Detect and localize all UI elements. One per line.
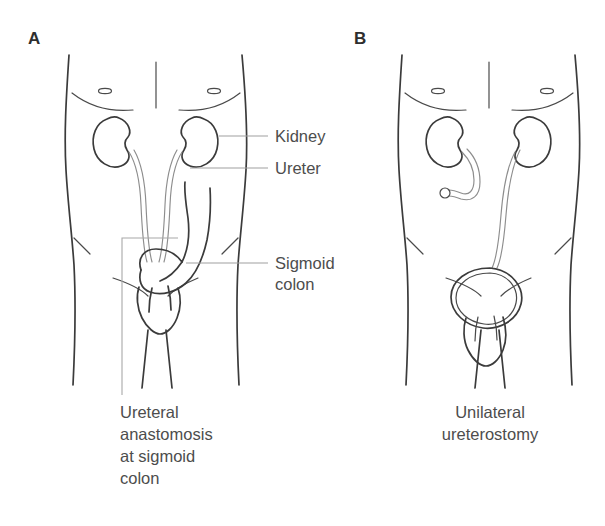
ureter-left-wall1-a [129,152,147,262]
label-ureter: Ureter [275,159,321,177]
urethra-inner-left-b [475,317,478,341]
ureter-right-a [159,150,182,262]
ureter-stoma-wall2-b [449,149,480,200]
costal-margin-right-b [512,93,573,110]
torso-left-outline-a [65,55,75,385]
kidney-right-outline-a [181,117,218,167]
panel-a-torso [65,55,247,388]
label-sigmoid-colon-line2: colon [275,275,314,293]
hip-crease-left-a [74,238,90,254]
ureter-right-wall1-b [492,152,515,268]
torso-left-outline-b [398,55,408,385]
caption-b-line1: Unilateral [455,403,525,421]
bladder-b [451,268,522,328]
costal-margin-right-a [179,93,240,110]
hip-crease-right-a [222,238,238,254]
ureter-right-wall1-a [164,152,182,262]
kidney-right-b [514,117,551,167]
kidney-left-b [426,117,463,167]
costal-margin-left-a [72,93,133,110]
ureter-right-wall2-a [159,150,177,262]
sigmoid-inner-fold-a [160,262,182,281]
groin-fold-right-a [168,278,198,296]
panel-a-letter: A [28,29,40,48]
kidney-left-outline-a [93,117,130,167]
ureter-right-b [492,150,520,268]
caption-a-line3: at sigmoid [120,447,195,465]
panel-b-letter: B [354,29,366,48]
leg-left-a [142,330,148,388]
bladder-outer-b [451,268,522,328]
label-kidney: Kidney [275,127,326,145]
panel-a: A [28,29,335,487]
nipple-right-b [541,88,554,93]
leg-right-a [166,330,172,388]
kidney-right-outline-b [514,117,551,167]
caption-b-line2: ureterostomy [442,425,539,443]
kidney-right-a [181,117,218,167]
caption-a-line4: colon [120,469,159,487]
caption-a-line2: anastomosis [120,425,213,443]
caption-a-line1: Ureteral [120,403,179,421]
panel-b-torso [398,55,580,388]
ureter-left-stoma-b [440,149,480,200]
leg-left-b [475,330,481,388]
ureter-left-wall2-a [134,150,152,262]
kidney-left-a [93,117,130,167]
hip-crease-left-b [407,238,423,254]
medical-figure: A [0,0,605,526]
nipple-right-a [208,88,221,93]
ureter-left-a [129,150,152,262]
torso-right-outline-a [237,55,247,385]
bladder-inner-b [456,273,517,324]
nipple-left-a [99,88,112,93]
label-sigmoid-colon-line1: Sigmoid [275,254,335,272]
panel-b: B [354,29,580,443]
rectum-inner-right-a [168,286,171,310]
hip-crease-right-b [555,238,571,254]
costal-margin-left-b [405,93,466,110]
kidney-left-outline-b [426,117,463,167]
sigmoid-lower-loop-a [140,188,211,294]
torso-right-outline-b [570,55,580,385]
stoma-opening-b [440,188,450,198]
nipple-left-b [432,88,445,93]
leg-right-b [499,330,505,388]
